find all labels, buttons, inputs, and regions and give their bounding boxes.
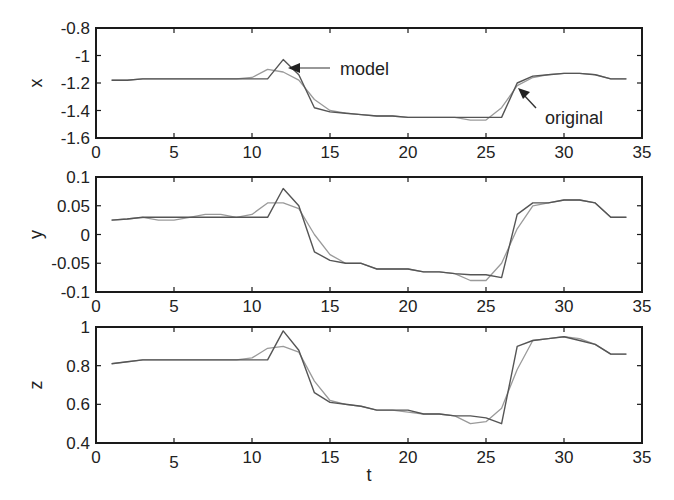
x-tick-label: 25 (477, 143, 496, 162)
original-series-line (112, 331, 627, 424)
x-tick-label: 5 (169, 297, 178, 316)
figure: 05101520253035-0.8-1-1.2-1.4-1.6x 051015… (0, 0, 674, 500)
x-tick-label: 20 (399, 297, 418, 316)
x-tick-label: 0 (91, 297, 100, 316)
x-tick-label: 30 (555, 143, 574, 162)
x-tick-label: 35 (633, 448, 652, 467)
x-tick-label: 30 (555, 297, 574, 316)
original-series-line (112, 189, 627, 278)
y-axis-label: x (26, 79, 46, 88)
y-tick-label: 0.05 (57, 197, 90, 216)
model-label: model (340, 59, 389, 79)
y-tick-label: -0.05 (51, 254, 90, 273)
x-tick-label: 15 (321, 448, 340, 467)
y-tick-label: 0.4 (66, 434, 90, 453)
y-tick-label: 0.8 (66, 357, 90, 376)
x-tick-label: 10 (243, 143, 262, 162)
x-tick-label: 0 (91, 448, 100, 467)
x-tick-label: 20 (399, 143, 418, 162)
axes-box (96, 177, 642, 292)
x-tick-label: 35 (633, 297, 652, 316)
x-tick-label: 15 (321, 143, 340, 162)
x-tick-label: 0 (91, 143, 100, 162)
x-tick-label: 30 (555, 448, 574, 467)
original-label: original (545, 108, 603, 128)
annotation-model: model (288, 59, 389, 79)
y-tick-label: -0.1 (61, 283, 90, 302)
x-tick-label: 10 (243, 448, 262, 467)
y-tick-label: -1 (75, 47, 90, 66)
subplot-x: 05101520253035-0.8-1-1.2-1.4-1.6x (26, 19, 651, 162)
x-tick-label: 15 (321, 297, 340, 316)
y-tick-label: -1.2 (61, 74, 90, 93)
x-tick-label: 5 (169, 453, 178, 472)
annotation-original: original (518, 88, 603, 128)
y-tick-label: 0.6 (66, 395, 90, 414)
y-tick-label: 0 (81, 226, 90, 245)
y-tick-label: -1.4 (61, 102, 90, 121)
arrow-left-icon (288, 63, 300, 73)
x-tick-label: 25 (477, 297, 496, 316)
arrow-up-left-icon (518, 88, 530, 99)
y-tick-label: 1 (81, 318, 90, 337)
x-tick-label: 25 (477, 448, 496, 467)
y-axis-label: y (26, 230, 46, 239)
x-axis-label: t (366, 465, 371, 485)
y-axis-label: z (26, 381, 46, 390)
model-series-line (112, 200, 627, 281)
model-series-line (112, 337, 627, 424)
x-tick-label: 35 (633, 143, 652, 162)
subplot-y: 051015202530350.10.050-0.05-0.1y (26, 168, 651, 316)
y-tick-label: -1.6 (61, 129, 90, 148)
x-tick-label: 10 (243, 297, 262, 316)
y-tick-label: -0.8 (61, 19, 90, 38)
y-tick-label: 0.1 (66, 168, 90, 187)
subplot-z: 0510152025303510.80.60.4z (26, 318, 651, 472)
x-tick-label: 5 (169, 143, 178, 162)
axes-box (96, 327, 642, 443)
x-tick-label: 20 (399, 448, 418, 467)
